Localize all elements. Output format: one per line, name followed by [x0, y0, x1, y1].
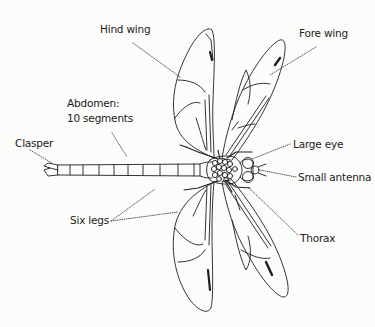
- dragonfly-illustration: [0, 0, 375, 327]
- label-abdomen: Abdomen:: [67, 97, 119, 110]
- hind-wing-upper: [173, 29, 214, 158]
- thorax: [207, 156, 242, 184]
- label-thorax: Thorax: [300, 232, 335, 245]
- label-fore-wing: Fore wing: [299, 27, 348, 40]
- legs: [180, 145, 252, 192]
- fore-wing-lower: [222, 180, 288, 297]
- leader-lines: [30, 43, 316, 235]
- hind-wing-lower: [173, 182, 214, 311]
- fore-wing-upper: [222, 40, 285, 160]
- dragonfly-diagram: Hind wing Fore wing Abdomen: 10 segments…: [0, 0, 375, 327]
- label-abdomen-segments: 10 segments: [67, 112, 133, 125]
- label-large-eye: Large eye: [293, 138, 343, 151]
- abdomen: [58, 162, 212, 178]
- label-hind-wing: Hind wing: [100, 23, 151, 36]
- label-clasper: Clasper: [15, 137, 53, 150]
- clasper: [44, 163, 58, 176]
- label-six-legs: Six legs: [70, 214, 109, 227]
- label-small-antenna: Small antenna: [298, 171, 371, 184]
- head: [240, 158, 266, 183]
